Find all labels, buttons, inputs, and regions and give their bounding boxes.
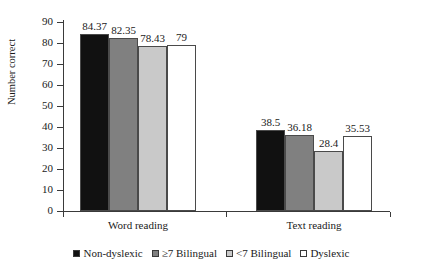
legend-swatch-icon <box>226 250 233 257</box>
bar: 79 <box>167 45 196 211</box>
legend-label: Non-dyslexic <box>83 246 142 260</box>
legend-label: ≥7 Bilingual <box>162 246 217 260</box>
y-axis-tick-label: 60 <box>42 77 53 92</box>
x-axis-tick <box>226 212 227 217</box>
bar: 36.18 <box>285 135 314 211</box>
bar: 38.5 <box>256 130 285 211</box>
x-axis-category-label: Word reading <box>80 218 196 232</box>
y-axis-tick-label: 40 <box>42 119 53 134</box>
y-axis-tick-label: 0 <box>48 203 54 218</box>
bar: 28.4 <box>314 151 343 211</box>
bar-value-label: 84.37 <box>82 20 107 33</box>
plot-area: 84.3782.3578.437938.536.1828.435.53 <box>63 22 390 211</box>
bar: 82.35 <box>109 38 138 211</box>
y-axis-tick-label: 90 <box>42 14 53 29</box>
y-axis-tick-label: 20 <box>42 161 53 176</box>
legend-item[interactable]: <7 Bilingual <box>226 246 291 260</box>
x-axis-tick <box>390 212 391 217</box>
legend-label: <7 Bilingual <box>236 246 291 260</box>
legend-swatch-icon <box>300 250 307 257</box>
y-axis-tick-label: 10 <box>42 182 53 197</box>
bar-chart: Number correct 0102030405060708090 84.37… <box>0 0 423 270</box>
bar-value-label: 36.18 <box>287 121 312 134</box>
bar-value-label: 28.4 <box>319 137 338 150</box>
y-axis-tick-label: 80 <box>42 35 53 50</box>
x-axis-category-label: Text reading <box>256 218 372 232</box>
y-axis-tick-label: 70 <box>42 56 53 71</box>
bar-value-label: 78.43 <box>140 32 165 45</box>
bar: 84.37 <box>80 34 109 211</box>
x-axis-tick <box>63 212 64 217</box>
bar-value-label: 38.5 <box>261 116 280 129</box>
y-axis-tick-label: 50 <box>42 98 53 113</box>
legend-swatch-icon <box>152 250 159 257</box>
y-axis-tick-label: 30 <box>42 140 53 155</box>
chart-legend: Non-dyslexic≥7 Bilingual<7 BilingualDysl… <box>0 246 423 260</box>
bar: 35.53 <box>343 136 372 211</box>
bar-value-label: 82.35 <box>111 24 136 37</box>
legend-item[interactable]: ≥7 Bilingual <box>152 246 217 260</box>
y-axis-title: Number correct <box>6 12 18 132</box>
legend-item[interactable]: Non-dyslexic <box>73 246 142 260</box>
bar: 78.43 <box>138 46 167 211</box>
bar-value-label: 79 <box>176 31 187 44</box>
legend-item[interactable]: Dyslexic <box>300 246 349 260</box>
bar-value-label: 35.53 <box>345 122 370 135</box>
legend-swatch-icon <box>73 250 80 257</box>
legend-label: Dyslexic <box>310 246 349 260</box>
